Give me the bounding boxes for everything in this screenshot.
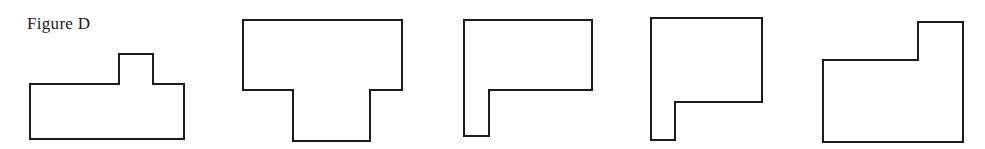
- shape-l-shape-step-upper-left: [823, 22, 963, 142]
- shape-rectangle-with-bottom-tab-left: [464, 20, 592, 136]
- shape-rectangle-with-bottom-tab-left-narrow: [651, 18, 762, 140]
- shape-rectangle-with-top-tab: [30, 54, 184, 139]
- shape-rectangle-with-bottom-tab-center: [243, 20, 402, 141]
- figure-panel: Figure D: [0, 0, 985, 149]
- shapes-canvas: [0, 0, 985, 149]
